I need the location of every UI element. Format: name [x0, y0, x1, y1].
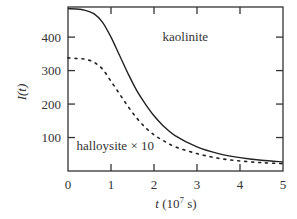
chart: 012345 100200300400 kaolinitehalloysite …: [0, 0, 297, 219]
x-axis-unit-open: (10: [159, 196, 180, 211]
y-axis-arg: (t): [14, 84, 29, 96]
y-tick-label: 400: [42, 30, 62, 45]
annotation-label: kaolinite: [163, 29, 209, 44]
x-tick-label: 1: [108, 177, 115, 192]
y-tick-label: 100: [42, 130, 62, 145]
x-tick-label: 4: [237, 177, 244, 192]
y-tick-label: 200: [42, 97, 62, 112]
x-tick-label: 2: [151, 177, 158, 192]
x-axis-unit-close: s): [184, 196, 197, 211]
x-axis-label: t (107 s): [155, 195, 196, 211]
x-tick-label: 3: [194, 177, 201, 192]
y-tick-labels: 100200300400: [42, 30, 62, 145]
x-tick-labels: 012345: [65, 177, 287, 192]
x-tick-label: 5: [280, 177, 287, 192]
x-tick-label: 0: [65, 177, 72, 192]
y-axis-label: I(t): [14, 84, 29, 102]
y-tick-label: 300: [42, 63, 62, 78]
annotation-layer: kaolinitehalloysite × 10: [77, 29, 209, 153]
annotation-label: halloysite × 10: [77, 138, 154, 153]
